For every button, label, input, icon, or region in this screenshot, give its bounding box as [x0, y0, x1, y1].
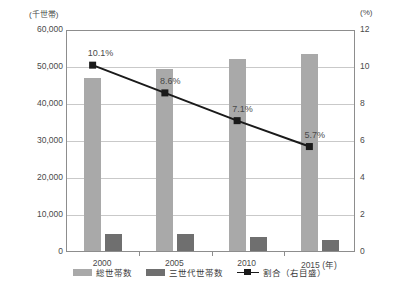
line-marker — [306, 143, 313, 150]
legend-swatch-icon — [73, 269, 92, 276]
left-axis-tick: 30,000 — [3, 135, 63, 145]
line-marker — [89, 62, 96, 69]
right-axis-unit-label: (%) — [360, 8, 372, 17]
line-marker — [161, 89, 168, 96]
legend-item[interactable]: 割合（右目盛） — [237, 266, 326, 278]
left-axis-tick: 40,000 — [3, 98, 63, 108]
line-marker — [234, 117, 241, 124]
line-data-label: 7.1% — [232, 104, 253, 114]
right-axis-tick: 4 — [360, 172, 390, 182]
right-axis-tick: 10 — [360, 61, 390, 71]
right-axis-tick: 8 — [360, 98, 390, 108]
x-tick-mark — [139, 252, 140, 256]
chart-container: (千世帯) (%) 60,00050,00040,00030,00020,000… — [0, 0, 399, 293]
right-axis-tick: 12 — [360, 24, 390, 34]
left-axis-tick: 60,000 — [3, 24, 63, 34]
legend-label: 三世代世帯数 — [169, 266, 223, 278]
legend-item[interactable]: 三世代世帯数 — [146, 266, 223, 278]
line-series — [67, 30, 356, 252]
chart-legend: 総世帯数三世代世帯数割合（右目盛） — [0, 266, 399, 278]
legend-item[interactable]: 総世帯数 — [73, 266, 132, 278]
left-axis-tick: 10,000 — [3, 209, 63, 219]
left-axis-tick: 20,000 — [3, 172, 63, 182]
line-data-label: 8.6% — [160, 76, 181, 86]
legend-label: 総世帯数 — [96, 266, 132, 278]
plot-area — [66, 30, 355, 252]
left-axis-tick: 50,000 — [3, 61, 63, 71]
right-axis-tick: 6 — [360, 135, 390, 145]
x-tick-mark — [284, 252, 285, 256]
legend-swatch-icon — [146, 269, 165, 276]
legend-label: 割合（右目盛） — [263, 266, 326, 278]
line-data-label: 10.1% — [88, 48, 114, 58]
left-axis-tick: 0 — [3, 246, 63, 256]
line-data-label: 5.7% — [304, 130, 325, 140]
legend-swatch-icon — [237, 269, 259, 276]
right-axis-tick: 0 — [360, 246, 390, 256]
x-tick-mark — [212, 252, 213, 256]
right-axis-tick: 2 — [360, 209, 390, 219]
left-axis-unit-label: (千世帯) — [29, 8, 58, 19]
